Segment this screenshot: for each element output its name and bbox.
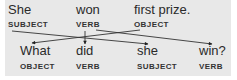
arrows-layer	[0, 0, 237, 80]
arrow-object-to-what	[32, 30, 140, 43]
arrow-verb-to-win	[96, 30, 212, 44]
